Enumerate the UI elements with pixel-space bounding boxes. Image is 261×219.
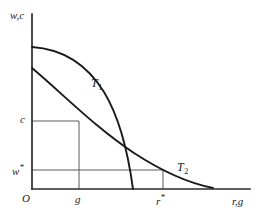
curve-label-t2-text: T: [177, 160, 184, 174]
y-tick-label-c: c: [20, 114, 25, 125]
curve-t1: [32, 47, 133, 189]
x-tick-label-r-star: r*: [156, 193, 165, 207]
axes-group: [32, 14, 250, 189]
guide-lines-group: [32, 121, 163, 189]
diagram-canvas: [0, 0, 261, 219]
y-axis-title: w,c: [10, 10, 24, 21]
figure-container: w,c r,g O g r* c w* T1 T2: [0, 0, 261, 219]
curve-label-t1-text: T: [91, 76, 98, 90]
x-axis-title: r,g: [232, 196, 243, 207]
curve-label-t1-subscript: 1: [98, 83, 103, 92]
curve-label-t2-subscript: 2: [184, 167, 189, 176]
origin-label: O: [22, 193, 30, 204]
y-tick-label-w-star-superscript: *: [19, 162, 24, 172]
x-tick-label-g: g: [75, 194, 81, 205]
curve-label-t2: T2: [177, 161, 188, 176]
curve-label-t1: T1: [91, 77, 102, 92]
y-tick-label-w-star: w*: [12, 163, 24, 177]
x-tick-label-r-star-superscript: *: [160, 192, 165, 202]
